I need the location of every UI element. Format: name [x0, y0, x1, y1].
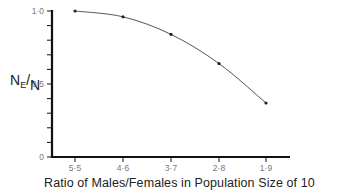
y-label-subscript: E	[20, 80, 26, 90]
y-label-denominator: N	[30, 77, 40, 93]
x-tick-label: 5·5	[69, 163, 82, 173]
y-tick-label: 1·0	[32, 6, 45, 16]
x-tick-label: 1·9	[260, 163, 273, 173]
x-tick-label: 2·8	[213, 163, 226, 173]
chart-plot-area: 00·51·0 5·54·63·72·81·9	[0, 0, 337, 196]
y-axis-label: NE/N	[10, 72, 40, 88]
data-points	[73, 9, 267, 104]
data-point	[169, 33, 172, 36]
data-point	[217, 62, 220, 65]
data-point	[121, 15, 124, 18]
data-curve	[75, 11, 266, 103]
y-tick-label: 0	[39, 152, 44, 162]
x-axis-label: Ratio of Males/Females in Population Siz…	[44, 176, 315, 190]
x-tick-label: 4·6	[117, 163, 130, 173]
x-axis-ticks: 5·54·63·72·81·9	[69, 157, 273, 173]
data-point	[264, 101, 267, 104]
y-label-main: N	[10, 72, 20, 88]
x-tick-label: 3·7	[165, 163, 178, 173]
data-point	[73, 9, 76, 12]
axes	[51, 10, 290, 158]
